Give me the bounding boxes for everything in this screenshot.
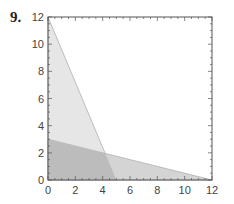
y-tick-label: 8 [38,65,44,77]
y-tick-label: 4 [38,120,44,132]
y-tick-label: 0 [38,174,44,186]
x-tick-label: 0 [45,184,51,196]
y-tick-label: 12 [32,11,44,23]
x-tick-label: 4 [100,184,106,196]
x-tick-label: 2 [72,184,78,196]
x-tick-label: 10 [179,184,191,196]
x-tick-label: 6 [127,184,133,196]
x-tick-label: 12 [206,184,218,196]
y-tick-label: 6 [38,93,44,105]
feasible-region-chart: 024681012024681012 [0,0,234,204]
x-tick-label: 8 [154,184,160,196]
y-tick-label: 2 [38,147,44,159]
y-tick-label: 10 [32,38,44,50]
